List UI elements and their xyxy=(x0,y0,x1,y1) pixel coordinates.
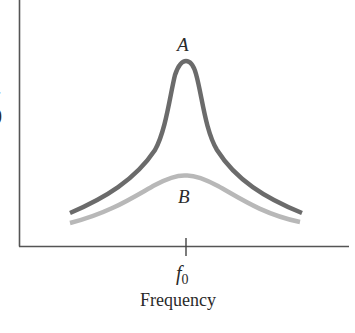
resonance-chart: · ) A B f0 Frequency xyxy=(0,0,355,333)
y-label-fragment-1: · xyxy=(0,82,2,104)
x-tick-label-f0: f0 xyxy=(176,262,189,288)
x-axis-title: Frequency xyxy=(140,290,216,311)
y-axis-label-cropped: · ) xyxy=(0,82,2,126)
curve-b-label: B xyxy=(178,186,190,208)
y-label-fragment-2: ) xyxy=(0,104,2,126)
tick-subscript: 0 xyxy=(182,272,189,287)
curve-a-label: A xyxy=(177,34,189,56)
